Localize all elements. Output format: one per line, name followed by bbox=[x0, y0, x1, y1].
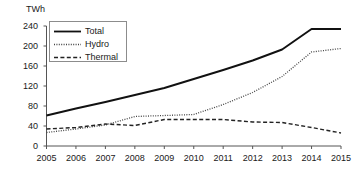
legend-swatch-solid-icon bbox=[54, 30, 81, 33]
legend-swatch-dashed-icon bbox=[54, 56, 81, 59]
legend-item-thermal: Thermal bbox=[54, 51, 126, 63]
legend-label-hydro: Hydro bbox=[85, 39, 109, 49]
legend-item-hydro: Hydro bbox=[54, 38, 126, 50]
series-line-thermal bbox=[47, 120, 342, 134]
legend-label-thermal: Thermal bbox=[85, 52, 118, 62]
legend-swatch-dotted-icon bbox=[54, 43, 81, 46]
legend: Total Hydro Thermal bbox=[49, 21, 127, 62]
legend-label-total: Total bbox=[85, 26, 104, 36]
legend-item-total: Total bbox=[54, 25, 126, 37]
